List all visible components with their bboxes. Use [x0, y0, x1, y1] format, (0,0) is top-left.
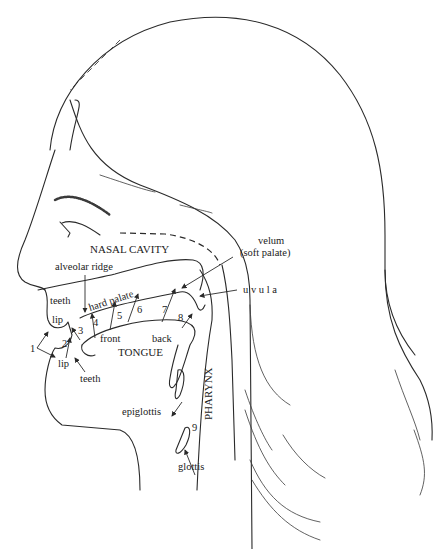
tongue-label: TONGUE — [118, 346, 163, 358]
epiglottis-label: epiglottis — [122, 406, 161, 417]
soft-palate-label: (soft palate) — [240, 247, 291, 259]
front-label: front — [100, 333, 120, 344]
velum-label: velum — [258, 235, 284, 246]
point-8: 8 — [178, 312, 183, 323]
point-3: 3 — [78, 325, 83, 336]
epiglottis-shape — [175, 370, 184, 399]
lip-lower-label: lip — [58, 358, 69, 369]
teeth-upper-label: teeth — [50, 295, 71, 306]
alveolar-ridge-label: alveolar ridge — [55, 261, 113, 272]
hard-palate-label: hard palate — [87, 288, 135, 313]
nasal-cavity-label: NASAL CAVITY — [90, 243, 169, 255]
point-7: 7 — [162, 304, 167, 315]
glottis-label: glottis — [178, 461, 204, 472]
pharynx-wall-back — [222, 265, 235, 460]
uvula-label: u v u l a — [243, 284, 277, 295]
vocal-tract-diagram: NASAL CAVITY TONGUE PHARYNX alveolar rid… — [0, 0, 444, 549]
back-label: back — [152, 333, 173, 344]
point-6: 6 — [137, 304, 142, 315]
point-4: 4 — [93, 317, 99, 328]
pharynx-label: PHARYNX — [202, 367, 214, 420]
point-9: 9 — [192, 422, 197, 433]
point-2: 2 — [62, 338, 67, 349]
point-5: 5 — [117, 310, 122, 321]
point-1: 1 — [30, 343, 35, 354]
teeth-lower-label: teeth — [80, 373, 101, 384]
head-outline — [18, 17, 433, 549]
glottis-shape — [176, 427, 190, 453]
lip-upper-label: lip — [52, 314, 63, 325]
